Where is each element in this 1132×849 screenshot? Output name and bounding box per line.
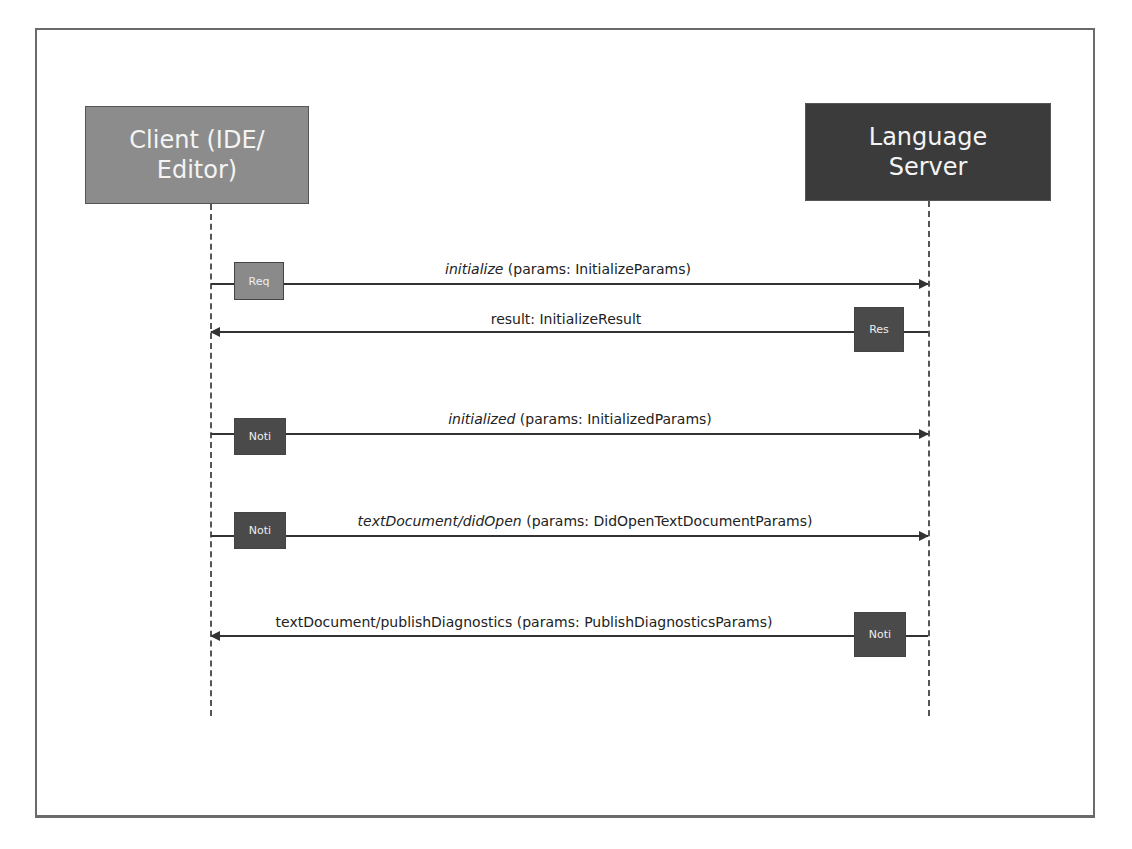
message-label-initialize-result: result: InitializeResult bbox=[491, 311, 642, 327]
server-lifeline bbox=[928, 201, 930, 716]
method-params: (params: InitializeParams) bbox=[503, 261, 691, 277]
method-name: initialized bbox=[448, 411, 515, 427]
method-params: (params: InitializedParams) bbox=[515, 411, 711, 427]
message-label-initialize: initialize (params: InitializeParams) bbox=[445, 261, 691, 277]
server-actor-box: Language Server bbox=[805, 103, 1051, 201]
method-params: (params: DidOpenTextDocumentParams) bbox=[522, 513, 813, 529]
method-name: textDocument/didOpen bbox=[358, 513, 522, 529]
message-label-publish-diagnostics: textDocument/publishDiagnostics (params:… bbox=[276, 614, 773, 630]
method-name: initialize bbox=[445, 261, 503, 277]
notification-tag: Noti bbox=[234, 512, 286, 549]
server-actor-label-line2: Server bbox=[869, 152, 987, 182]
client-actor-box: Client (IDE/ Editor) bbox=[85, 106, 309, 204]
method-text: textDocument/publishDiagnostics (params:… bbox=[276, 614, 773, 630]
message-label-initialized: initialized (params: InitializedParams) bbox=[448, 411, 712, 427]
server-actor-label-line1: Language bbox=[869, 122, 987, 152]
notification-tag: Noti bbox=[854, 612, 906, 657]
message-label-did-open: textDocument/didOpen (params: DidOpenTex… bbox=[358, 513, 813, 529]
result-text: result: InitializeResult bbox=[491, 311, 642, 327]
client-actor-label-line1: Client (IDE/ bbox=[129, 125, 264, 155]
request-tag: Req bbox=[234, 262, 284, 300]
notification-tag: Noti bbox=[234, 418, 286, 455]
response-tag: Res bbox=[854, 307, 904, 352]
client-actor-label-line2: Editor) bbox=[129, 155, 264, 185]
client-lifeline bbox=[210, 204, 212, 716]
